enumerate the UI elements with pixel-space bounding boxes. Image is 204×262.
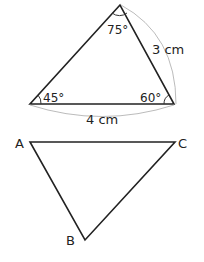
angle-arc-right (164, 95, 169, 104)
angle-arc-left (38, 95, 41, 104)
vertex-label-b: B (66, 233, 75, 248)
side-label-bottom: 4 cm (86, 112, 118, 127)
side-label-right: 3 cm (152, 42, 184, 57)
vertex-label-a: A (15, 136, 24, 151)
angle-label-right: 60° (140, 91, 161, 105)
vertex-label-c: C (178, 136, 187, 151)
reference-triangle: 75° 45° 60° 3 cm 4 cm (30, 5, 184, 127)
angle-label-top: 75° (107, 23, 128, 37)
triangle-abc-outline (30, 142, 175, 240)
diagram: 75° 45° 60° 3 cm 4 cm A C B (0, 0, 204, 262)
target-triangle: A C B (15, 136, 187, 248)
angle-label-left: 45° (43, 91, 64, 105)
